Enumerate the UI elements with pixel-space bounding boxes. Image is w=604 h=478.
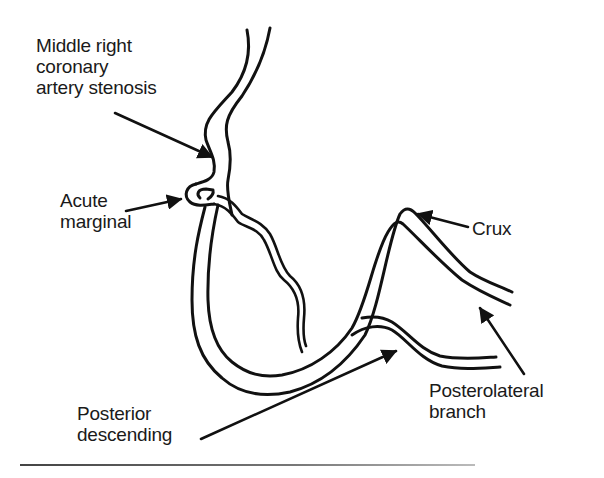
bottom-divider xyxy=(20,464,475,466)
label-stenosis: Middle right coronary artery stenosis xyxy=(36,35,157,98)
stenosis-arrow xyxy=(115,113,212,157)
coronary-diagram: Middle right coronary artery stenosis Ac… xyxy=(0,0,604,478)
acute-marginal-branch-wall-b xyxy=(218,196,306,346)
label-crux: Crux xyxy=(472,218,511,239)
label-posterior-descending: Posterior descending xyxy=(77,403,172,445)
acute-marginal-loop-inner xyxy=(198,189,213,199)
posterior-descending-arrow xyxy=(201,351,396,439)
label-posterolateral: Posterolateral branch xyxy=(429,380,543,422)
acute-marginal-loop-outer xyxy=(186,184,214,205)
acute-marginal-branch-wall-a xyxy=(214,204,302,352)
posterior-descending-wall-a xyxy=(362,317,496,359)
label-acute-marginal: Acute marginal xyxy=(60,190,131,232)
posterolateral-arrow xyxy=(480,308,524,374)
acute-marginal-arrow xyxy=(126,199,181,211)
rca-proximal-left-wall xyxy=(196,30,249,184)
